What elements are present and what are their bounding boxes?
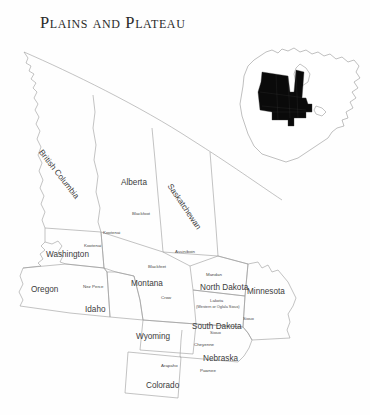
north-dakota-borders — [190, 256, 248, 296]
north-america-outline — [232, 46, 364, 170]
map-page: Plains and Plateau — [0, 0, 370, 415]
inset-locator-map — [232, 46, 364, 170]
montana-borders — [104, 252, 196, 324]
idaho-borders — [104, 268, 143, 320]
oregon-borders — [19, 268, 110, 317]
alberta-saskatchewan-border — [152, 128, 163, 252]
washington-coast — [23, 242, 45, 268]
nebraska-borders — [180, 324, 252, 362]
pacific-coast-line — [24, 52, 45, 228]
washington-oregon-border — [23, 264, 104, 268]
minnesota-borders — [243, 262, 296, 340]
colorado-borders — [125, 352, 181, 398]
washington-borders — [45, 228, 104, 268]
bc-alberta-border — [93, 95, 101, 232]
saskatchewan-east-border — [210, 152, 218, 256]
idaho-panhandle-border — [101, 232, 104, 268]
south-dakota-borders — [193, 290, 245, 327]
wyoming-borders — [140, 320, 196, 354]
